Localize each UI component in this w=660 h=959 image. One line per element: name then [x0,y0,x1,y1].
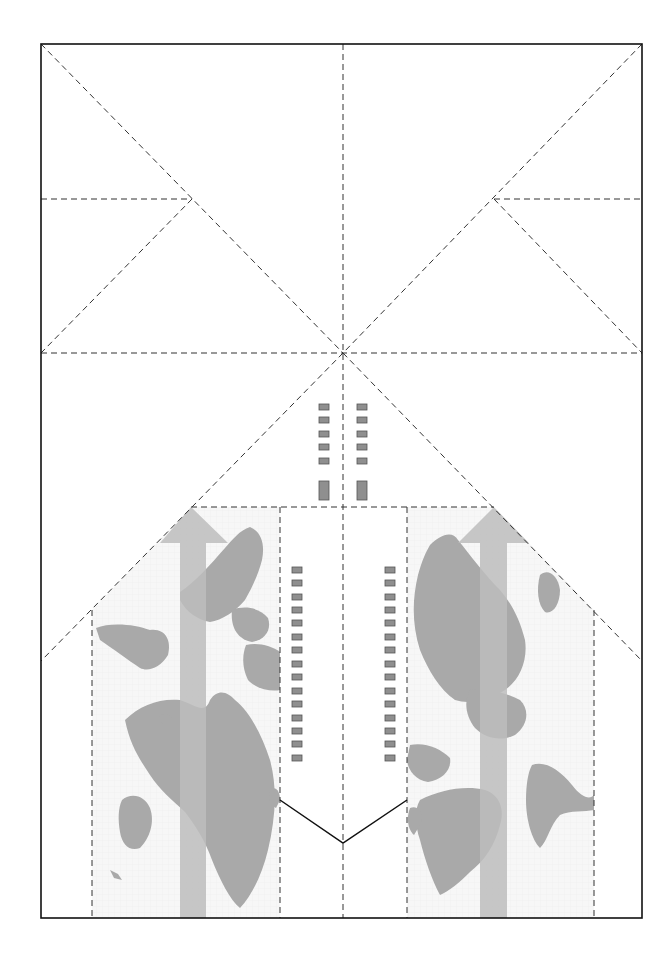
right-map-panel [407,507,594,918]
door-left [319,481,329,500]
left-map-panel [92,507,280,918]
fold-flap-right-inner [494,199,642,353]
side-windows-right [385,567,395,761]
door-right [357,481,367,500]
side-windows-left [292,567,302,761]
folding-diagram [0,0,660,959]
fold-flap-left-inner [41,199,192,353]
